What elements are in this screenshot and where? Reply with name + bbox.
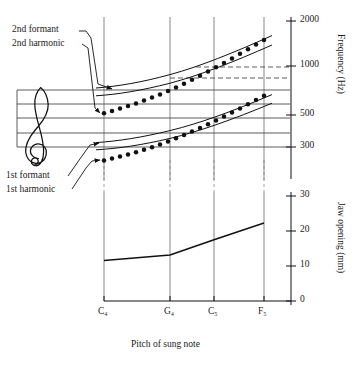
x-tick-g4: G₄ — [164, 306, 174, 316]
jaw-axis — [286, 192, 296, 305]
freq-tick-1000: 1000 — [300, 59, 319, 69]
frequency-axis-label: Frequency (Hz) — [336, 34, 346, 94]
frequency-axis — [286, 17, 296, 179]
first-formant-band — [96, 95, 272, 150]
second-formant-band — [96, 36, 272, 96]
x-axis-caption: Pitch of sung note — [131, 339, 200, 349]
jaw-tick-0: 0 — [300, 294, 305, 304]
upper-gridlines-dashed-tail — [104, 160, 264, 192]
annotation-second-harmonic: 2nd harmonic — [12, 38, 65, 48]
x-tick-f5: F₅ — [258, 306, 267, 316]
leader-second-formant — [79, 31, 112, 89]
x-tick-c4: C₄ — [98, 306, 108, 316]
freq-tick-500: 500 — [300, 108, 314, 118]
figure-root: 2nd formant 2nd harmonic 1st formant 1st… — [0, 0, 364, 367]
jaw-tick-30: 30 — [300, 189, 310, 199]
jaw-tick-20: 20 — [300, 224, 310, 234]
annotation-first-formant: 1st formant — [6, 170, 50, 180]
freq-tick-2000: 2000 — [300, 14, 319, 24]
freq-tick-300: 300 — [300, 140, 314, 150]
lower-gridlines — [104, 192, 264, 301]
treble-clef-icon — [26, 88, 49, 166]
annotation-first-harmonic: 1st harmonic — [6, 184, 55, 194]
x-axis — [104, 296, 291, 301]
jaw-axis-label: Jaw opening (mm) — [336, 202, 346, 273]
jaw-opening-line — [104, 223, 264, 261]
annotation-second-formant: 2nd formant — [12, 24, 59, 34]
x-tick-c5: C₅ — [208, 306, 218, 316]
jaw-tick-10: 10 — [300, 259, 310, 269]
